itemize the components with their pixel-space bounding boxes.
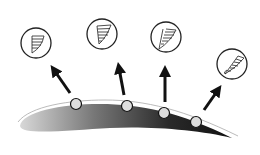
velocity-profile-bubble xyxy=(151,22,181,52)
station-marker xyxy=(191,117,202,128)
arrow-icon xyxy=(204,90,218,110)
station-1 xyxy=(21,28,82,110)
station-marker xyxy=(71,99,82,110)
velocity-profile-bubble xyxy=(21,28,51,58)
station-marker xyxy=(122,101,133,112)
arrow-icon xyxy=(119,68,124,95)
station-4 xyxy=(191,49,248,128)
arrow-icon xyxy=(54,70,70,93)
station-3 xyxy=(151,22,181,119)
velocity-profile-bubble xyxy=(87,19,117,49)
station-marker xyxy=(159,108,170,119)
station-2 xyxy=(87,19,133,112)
airfoil-boundary-layer-diagram xyxy=(0,0,260,155)
